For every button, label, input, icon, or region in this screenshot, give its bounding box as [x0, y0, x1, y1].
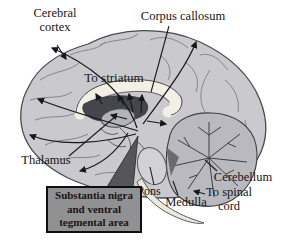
label-cerebral-cortex: Cerebral cortex — [33, 6, 76, 34]
callout-line-3: tegmental area — [59, 216, 129, 230]
label-to-striatum: To striatum — [84, 71, 143, 85]
label-medulla: Medulla — [165, 195, 207, 209]
label-cerebellum: Cerebellum — [214, 170, 272, 184]
substantia-nigra-callout: Substantia nigra and ventral tegmental a… — [46, 186, 142, 233]
label-to-spinal-cord: To spinal cord — [206, 186, 252, 213]
callout-line-1: Substantia nigra — [55, 189, 133, 203]
callout-line-2: and ventral — [67, 203, 121, 217]
label-thalamus: Thalamus — [21, 153, 70, 167]
figure-canvas: Cerebral cortex Corpus callosum To stria… — [0, 0, 285, 248]
label-corpus-callosum: Corpus callosum — [141, 9, 225, 23]
